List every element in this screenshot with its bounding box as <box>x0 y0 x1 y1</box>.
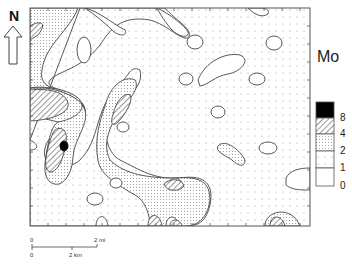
north-arrow-icon <box>4 26 22 64</box>
legend-break-2: 2 <box>340 145 346 156</box>
legend-title: Mo <box>317 48 339 66</box>
scale-bar <box>32 244 97 250</box>
scale-mi-label: 2 mi <box>94 237 105 243</box>
scale-mi-zero: 0 <box>30 237 33 243</box>
contour-map <box>0 0 352 266</box>
legend-break-1: 1 <box>340 162 346 173</box>
legend-break-8: 8 <box>340 112 346 123</box>
scale-km-zero: 0 <box>30 252 33 258</box>
zone-above-8 <box>60 141 68 151</box>
legend-break-4: 4 <box>340 128 346 139</box>
legend-break-0: 0 <box>340 180 346 191</box>
scale-km-label: 2 km <box>69 252 82 258</box>
north-label: N <box>9 8 19 24</box>
legend-swatches <box>316 102 334 186</box>
